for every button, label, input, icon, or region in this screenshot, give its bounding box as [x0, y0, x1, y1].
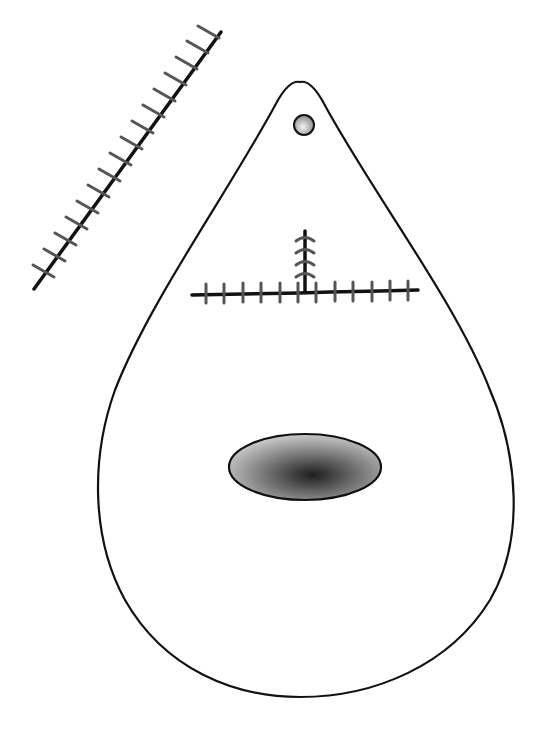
flap-outline: [98, 82, 514, 697]
flap-diagram: [0, 0, 545, 730]
pivot-hole-icon: [294, 115, 314, 135]
lesion: [229, 434, 381, 500]
